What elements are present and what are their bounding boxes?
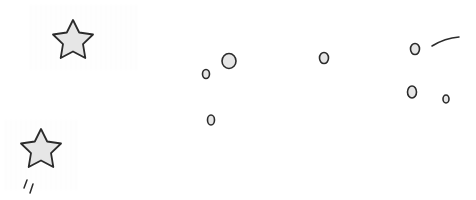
circle-5-icon [411,44,420,55]
circle-2-icon [203,70,210,79]
star-top-left-icon [53,20,93,58]
stars-group [21,20,93,167]
motion-streak-1-icon [24,180,27,188]
circles-group [203,44,450,126]
circle-4-icon [320,53,329,64]
circle-7-icon [443,95,449,103]
circle-3-icon [208,115,215,125]
circle-1-icon [222,54,236,69]
circle-6-icon [408,86,417,98]
doodle-canvas [0,0,476,200]
motion-streak-2-icon [30,184,33,193]
strokes-group [24,37,459,193]
curved-line-icon [432,37,459,46]
star-bottom-left-icon [21,129,61,167]
